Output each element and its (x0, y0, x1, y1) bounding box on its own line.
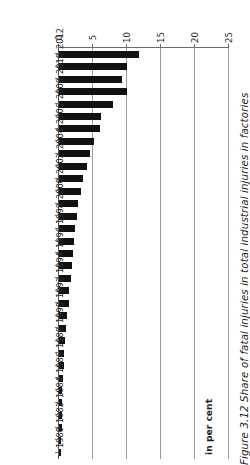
plot-area (59, 48, 229, 459)
category-tick-1998 (55, 228, 59, 229)
category-tick-label-2012: 2012 (55, 19, 66, 49)
category-tick-1995 (55, 265, 59, 266)
figure-caption: Figure 3.12 Share of fatal injuries in t… (233, 0, 237, 465)
value-tick-label-25: 25 (223, 25, 236, 51)
category-tick-1980 (55, 452, 59, 453)
gridline-10 (126, 48, 127, 459)
gridline-25 (228, 48, 229, 459)
category-tick-1993 (55, 290, 59, 291)
category-tick-1982 (55, 427, 59, 428)
category-axis-line (58, 47, 229, 48)
category-tick-1983 (55, 414, 59, 415)
category-tick-1985 (55, 390, 59, 391)
category-tick-1991 (55, 315, 59, 316)
category-tick-1997 (55, 240, 59, 241)
category-tick-2008 (55, 103, 59, 104)
category-tick-1996 (55, 253, 59, 254)
category-tick-1992 (55, 302, 59, 303)
category-tick-2005 (55, 140, 59, 141)
bar-2008 (59, 101, 113, 108)
category-tick-1981 (55, 439, 59, 440)
category-tick-1988 (55, 352, 59, 353)
bar-2009 (59, 88, 127, 95)
category-tick-2001 (55, 190, 59, 191)
category-tick-1989 (55, 340, 59, 341)
category-tick-2009 (55, 91, 59, 92)
value-tick-label-5: 5 (87, 25, 100, 51)
gridline-15 (160, 48, 161, 459)
gridline-5 (92, 48, 93, 459)
bar-1980 (59, 449, 61, 456)
category-tick-2010 (55, 78, 59, 79)
bar-2011 (59, 63, 127, 70)
category-tick-1987 (55, 365, 59, 366)
category-tick-1994 (55, 277, 59, 278)
category-tick-2007 (55, 116, 59, 117)
value-tick-label-20: 20 (189, 25, 202, 51)
category-tick-1990 (55, 327, 59, 328)
category-tick-2012 (55, 53, 59, 54)
category-tick-2011 (55, 66, 59, 67)
gridline-20 (194, 48, 195, 459)
category-tick-1984 (55, 402, 59, 403)
category-tick-1986 (55, 377, 59, 378)
category-tick-2002 (55, 178, 59, 179)
value-tick-label-10: 10 (121, 25, 134, 51)
bar-2010 (59, 76, 122, 83)
value-tick-label-15: 15 (155, 25, 168, 51)
bar-2012 (59, 51, 139, 58)
figure-root: Figure 3.12 Share of fatal injuries in t… (0, 0, 237, 465)
category-tick-1999 (55, 215, 59, 216)
category-tick-2006 (55, 128, 59, 129)
category-tick-2003 (55, 165, 59, 166)
category-tick-2000 (55, 203, 59, 204)
category-tick-2004 (55, 153, 59, 154)
